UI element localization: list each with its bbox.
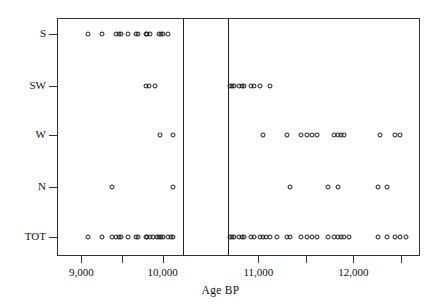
data-point-sw (242, 84, 247, 89)
data-point-tot (309, 235, 314, 240)
data-point-tot (275, 235, 280, 240)
data-point-s (125, 32, 130, 37)
y-axis-tick-n (49, 187, 57, 188)
y-axis-tick-w (49, 135, 57, 136)
x-axis-label-10000: 10,000 (148, 266, 178, 278)
data-point-sw (258, 84, 263, 89)
y-axis-label-tot: TOT (25, 231, 46, 242)
data-point-n (384, 185, 389, 190)
data-point-sw (251, 84, 256, 89)
x-axis-label-12000: 12,000 (338, 266, 368, 278)
x-axis-tick-9000 (81, 256, 82, 263)
data-point-tot (299, 235, 304, 240)
data-point-s (119, 32, 124, 37)
data-point-tot (376, 235, 381, 240)
y-axis-tick-sw (49, 86, 57, 87)
data-point-sw (146, 84, 151, 89)
data-point-w (309, 133, 314, 138)
y-axis-tick-s (49, 34, 57, 35)
data-point-n (171, 185, 176, 190)
y-axis-label-w: W (36, 129, 46, 140)
y-axis-label-sw: SW (30, 80, 47, 91)
data-point-w (378, 133, 383, 138)
y-axis-label-wrap: N (0, 181, 46, 193)
data-point-tot (325, 235, 330, 240)
axis-break-line-left (183, 18, 184, 256)
axis-break-gap (184, 19, 228, 255)
x-axis-tick-10000 (163, 256, 164, 263)
y-axis-label-wrap: S (0, 28, 46, 40)
data-point-tot (171, 235, 176, 240)
data-point-w (398, 133, 403, 138)
data-point-n (336, 185, 341, 190)
x-axis-minor-tick-11500 (306, 256, 307, 263)
data-point-tot (267, 235, 272, 240)
plot-area (57, 18, 420, 256)
data-point-w (261, 133, 266, 138)
data-point-tot (384, 235, 389, 240)
data-point-w (341, 133, 346, 138)
data-point-tot (231, 235, 236, 240)
y-axis-label-wrap: SW (0, 80, 46, 92)
x-axis-title: Age BP (0, 284, 441, 296)
data-point-s (85, 32, 90, 37)
data-point-tot (119, 235, 124, 240)
data-point-tot (136, 235, 141, 240)
y-axis-label-s: S (40, 28, 46, 39)
x-axis-tick-12000 (353, 256, 354, 263)
data-point-tot (346, 235, 351, 240)
axis-break-line-right (228, 18, 229, 256)
data-point-tot (85, 235, 90, 240)
data-point-n (325, 185, 330, 190)
y-axis-label-wrap: W (0, 129, 46, 141)
data-point-tot (99, 235, 104, 240)
data-point-s (147, 32, 152, 37)
data-point-tot (287, 235, 292, 240)
data-point-tot (242, 235, 247, 240)
data-point-w (284, 133, 289, 138)
data-point-sw (152, 84, 157, 89)
data-point-tot (398, 235, 403, 240)
x-axis-tick-11000 (258, 256, 259, 263)
data-point-tot (403, 235, 408, 240)
data-point-tot (125, 235, 130, 240)
data-point-n (110, 185, 115, 190)
data-point-tot (251, 235, 256, 240)
data-point-w (315, 133, 320, 138)
y-axis-tick-tot (49, 237, 57, 238)
data-point-s (136, 32, 141, 37)
scatter-chart-figure: SSWWNTOT 9,00010,00011,00012,000 Age BP (0, 0, 441, 307)
data-point-n (376, 185, 381, 190)
data-point-sw (231, 84, 236, 89)
x-axis-label-9000: 9,000 (69, 266, 94, 278)
y-axis-label-wrap: TOT (0, 231, 46, 243)
data-point-sw (267, 84, 272, 89)
y-axis-label-n: N (38, 181, 46, 192)
x-axis-minor-tick-9500 (122, 256, 123, 263)
data-point-n (287, 185, 292, 190)
x-axis-minor-tick-12500 (401, 256, 402, 263)
data-point-w (158, 133, 163, 138)
data-point-w (299, 133, 304, 138)
data-point-s (99, 32, 104, 37)
data-point-s (165, 32, 170, 37)
x-axis-label-11000: 11,000 (243, 266, 273, 278)
data-point-w (171, 133, 176, 138)
data-point-tot (315, 235, 320, 240)
